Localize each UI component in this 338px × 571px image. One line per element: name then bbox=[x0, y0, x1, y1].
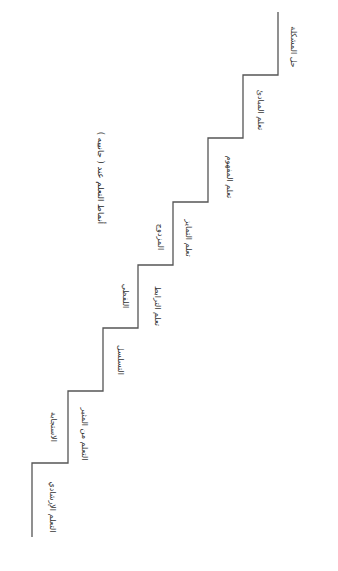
step-label-problem-solving: حل المشكلة bbox=[289, 26, 297, 67]
diagram-title: أنماط التعلم عند ( جانييه ) bbox=[97, 132, 106, 224]
step-label-signal-learning: التعلم الإرشادي bbox=[48, 481, 56, 532]
step-label-stimulus-response: التعلم من المثير bbox=[80, 408, 88, 461]
staircase-line bbox=[32, 12, 278, 537]
step-label-verbal-association: تعلم الترابط bbox=[153, 286, 161, 326]
step-label-concept-learning: تعلم المفهوم bbox=[225, 156, 233, 199]
step-label-chaining: التسلسل bbox=[116, 345, 124, 375]
step-label-discrimination-learning: تعلم التمايز bbox=[184, 219, 192, 256]
step-label-multiple-discrimination: المزدوج bbox=[156, 224, 164, 250]
step-label-verbal: اللفظي bbox=[121, 284, 129, 309]
step-label-principle-learning: تعلم المبادئ bbox=[256, 90, 264, 131]
step-label-response: الاستجابة bbox=[49, 412, 57, 442]
